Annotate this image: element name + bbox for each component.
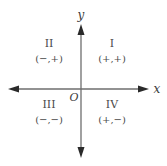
y-axis-positive-arrow-icon xyxy=(78,24,85,35)
quadrant-signs: (−,+) xyxy=(35,53,63,64)
quadrant-signs: (+,+) xyxy=(98,53,126,64)
quadrant-numeral: IV xyxy=(106,98,119,111)
quadrant-3: III (−,−) xyxy=(35,98,63,125)
x-axis-negative-arrow-icon xyxy=(8,86,19,93)
origin-label: O xyxy=(69,91,78,104)
quadrant-signs: (+,−) xyxy=(98,114,126,125)
quadrant-signs: (−,−) xyxy=(35,114,63,125)
y-axis-label: y xyxy=(77,8,85,22)
y-axis-negative-arrow-icon xyxy=(78,147,85,158)
quadrant-numeral: II xyxy=(45,37,54,50)
quadrant-numeral: I xyxy=(110,37,114,50)
quadrant-4: IV (+,−) xyxy=(98,98,126,125)
quadrant-1: I (+,+) xyxy=(98,37,126,64)
coordinate-plane: y x O I (+,+) II (−,+) III (−,−) IV (+,−… xyxy=(0,0,167,166)
x-axis-label: x xyxy=(154,82,161,96)
x-axis-positive-arrow-icon xyxy=(138,86,149,93)
quadrant-2: II (−,+) xyxy=(35,37,63,64)
quadrant-numeral: III xyxy=(42,98,55,111)
